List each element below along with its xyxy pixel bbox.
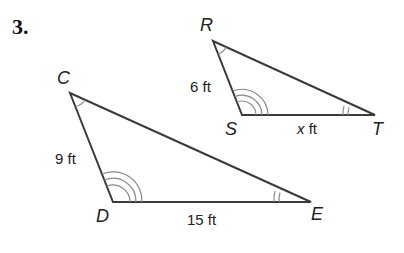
angle-e-arc-1 <box>274 191 275 202</box>
side-st-unit: ft <box>305 120 318 137</box>
angle-e-arc-2 <box>279 193 280 203</box>
side-de-length: 15 ft <box>187 211 216 228</box>
side-rs-length: 6 ft <box>190 78 211 95</box>
angle-c-arc <box>76 100 86 107</box>
triangle-cde <box>70 93 311 202</box>
problem-number: 3. <box>12 14 29 40</box>
angle-r-arc <box>218 48 226 55</box>
vertex-label-d: D <box>96 206 109 227</box>
vertex-label-r: R <box>200 15 213 36</box>
vertex-label-e: E <box>311 204 323 225</box>
vertex-label-c: C <box>57 68 70 89</box>
side-st-length: x ft <box>297 120 317 137</box>
similar-triangles-figure: 3. C D E 9 ft 15 ft R S T 6 ft x ft <box>0 0 404 253</box>
side-cd-length: 9 ft <box>55 150 76 167</box>
vertex-label-s: S <box>225 119 237 140</box>
triangle-rst <box>213 41 375 115</box>
vertex-label-t: T <box>372 119 383 140</box>
angle-t-arc-1 <box>343 106 344 115</box>
angle-t-arc-2 <box>348 108 349 116</box>
side-st-variable: x <box>297 120 305 137</box>
